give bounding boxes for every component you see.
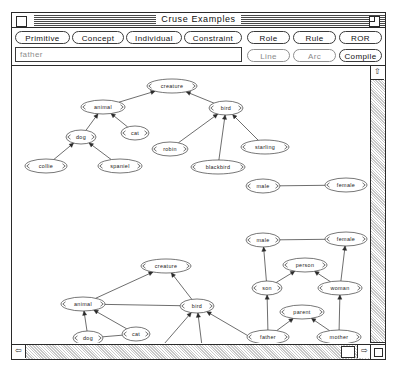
graph-node[interactable]: spaniel — [98, 159, 142, 173]
edge-arrowhead — [171, 273, 175, 278]
title-bar[interactable]: Cruse Examples — [12, 13, 385, 28]
window-title-text: Cruse Examples — [156, 14, 240, 24]
scroll-left-arrow-icon[interactable]: ⇦ — [12, 344, 26, 358]
graph-node[interactable]: blackbird — [191, 160, 245, 174]
canvas-area: creatureanimalbirddogcatcolliespanielrob… — [12, 66, 385, 359]
graph-node[interactable]: collie — [25, 159, 67, 173]
graph-edge[interactable] — [186, 92, 214, 103]
scroll-right-arrow-icon[interactable]: ⇨ — [357, 344, 371, 358]
graph-node[interactable]: cat — [121, 126, 149, 140]
edge-arrowhead — [83, 311, 87, 316]
graph-edge[interactable] — [119, 91, 155, 102]
individual-button[interactable]: Individual — [126, 31, 182, 44]
graph-node[interactable]: mother — [317, 330, 361, 343]
node-label: creature — [155, 263, 178, 269]
close-box-icon[interactable] — [16, 16, 27, 27]
vertical-scrollbar[interactable]: ⇧ — [370, 66, 385, 343]
graph-edge[interactable] — [164, 313, 192, 343]
graph-edge[interactable] — [339, 295, 340, 330]
node-label: dog — [83, 335, 93, 341]
node-label: bird — [221, 105, 231, 111]
edge-arrowhead — [315, 271, 320, 275]
edge-arrowhead — [343, 246, 347, 250]
node-label: cat — [131, 130, 139, 136]
graph-node[interactable]: dog — [66, 130, 96, 144]
node-label: son — [262, 285, 272, 291]
toolbar: Primitive Concept Individual Constraint … — [12, 28, 385, 66]
graph-edge[interactable] — [198, 313, 204, 343]
graph-node[interactable]: bird — [209, 101, 243, 115]
graph-node[interactable]: female — [325, 232, 367, 246]
graph-node[interactable]: parent — [280, 305, 324, 319]
compile-button[interactable]: Compile — [339, 49, 382, 62]
graph-node[interactable]: female — [325, 178, 367, 192]
graph-node[interactable]: woman — [318, 281, 362, 295]
node-label: parent — [293, 309, 311, 315]
node-label: spaniel — [110, 163, 130, 169]
node-label: starling — [255, 144, 275, 150]
graph-nodes-layer: creatureanimalbirddogcatcolliespanielrob… — [24, 79, 367, 343]
graph-node[interactable]: starling — [241, 140, 289, 154]
horizontal-scroll-thumb[interactable] — [341, 346, 355, 358]
scroll-up-arrow-icon[interactable]: ⇧ — [370, 66, 384, 80]
role-button[interactable]: Role — [247, 31, 290, 44]
rule-button[interactable]: Rule — [293, 31, 336, 44]
edge-arrowhead — [213, 114, 218, 118]
primitive-button[interactable]: Primitive — [15, 31, 70, 44]
arc-button[interactable]: Arc — [293, 49, 336, 62]
node-label: father — [260, 334, 276, 340]
graph-edge[interactable] — [178, 114, 217, 143]
graph-edge[interactable] — [341, 246, 345, 281]
graph-node[interactable]: son — [252, 281, 282, 295]
graph-node[interactable]: cat — [122, 327, 150, 341]
edge-arrowhead — [69, 143, 74, 147]
graph-node[interactable]: creature — [141, 259, 191, 273]
graph-canvas[interactable]: creatureanimalbirddogcatcolliespanielrob… — [12, 66, 372, 343]
node-label: male — [256, 183, 269, 189]
node-label: female — [337, 236, 355, 242]
graph-node[interactable]: male — [246, 179, 280, 193]
constraint-button[interactable]: Constraint — [184, 31, 242, 44]
edge-arrowhead — [311, 318, 316, 322]
graph-edge[interactable] — [280, 185, 325, 186]
graph-edge[interactable] — [103, 335, 122, 337]
node-label: robin — [163, 146, 177, 152]
edge-arrowhead — [94, 114, 98, 119]
graph-node[interactable]: person — [283, 258, 327, 272]
node-label: creature — [161, 83, 184, 89]
name-input[interactable]: father — [15, 47, 242, 62]
zoom-box-icon[interactable] — [369, 16, 380, 27]
resize-grow-box-icon[interactable] — [370, 344, 385, 359]
line-button[interactable]: Line — [247, 49, 290, 62]
graph-edge[interactable] — [219, 115, 225, 160]
horizontal-scrollbar[interactable]: ⇦ ⇨ — [12, 344, 371, 359]
graph-edge[interactable] — [171, 273, 192, 300]
window-title: Cruse Examples — [12, 14, 385, 24]
graph-edge[interactable] — [105, 304, 180, 305]
graph-node[interactable]: animal — [81, 100, 125, 114]
graph-edge[interactable] — [280, 239, 325, 240]
graph-node[interactable]: male — [246, 233, 280, 247]
node-label: collie — [39, 163, 53, 169]
concept-button[interactable]: Concept — [72, 31, 124, 44]
edge-arrowhead — [262, 247, 266, 251]
edge-arrowhead — [222, 115, 226, 119]
graph-node[interactable]: father — [247, 330, 289, 343]
edge-arrowhead — [265, 295, 269, 299]
horizontal-scroll-track[interactable] — [26, 344, 371, 359]
graph-edge[interactable] — [264, 247, 267, 281]
graph-edge[interactable] — [96, 272, 153, 298]
graph-node[interactable]: creature — [147, 79, 197, 93]
graph-node[interactable]: animal — [61, 297, 105, 311]
graph-node[interactable]: robin — [152, 142, 188, 156]
graph-edge[interactable] — [94, 310, 127, 329]
graph-node[interactable]: dog — [73, 331, 103, 343]
ror-button[interactable]: ROR — [339, 31, 382, 44]
node-label: female — [337, 182, 355, 188]
graph-node[interactable]: bird — [180, 299, 214, 313]
graph-edge[interactable] — [233, 115, 259, 141]
edge-arrowhead — [338, 295, 342, 299]
node-label: woman — [329, 285, 349, 291]
graph-edge[interactable] — [267, 295, 268, 330]
vertical-scroll-track[interactable] — [370, 80, 385, 343]
